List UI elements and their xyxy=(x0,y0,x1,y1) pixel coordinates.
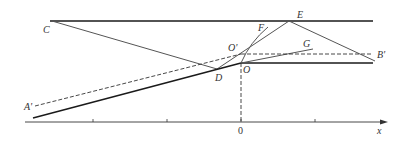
label-e: E xyxy=(296,9,303,20)
label-o: O xyxy=(243,64,250,75)
line-c-d xyxy=(52,21,217,69)
label-d: D xyxy=(214,72,223,83)
geometry-diagram: C E F G O' O D A' B' 0 x xyxy=(0,0,405,143)
label-c: C xyxy=(43,24,50,35)
bold-line-a-o xyxy=(33,63,241,118)
label-a-prime: A' xyxy=(23,101,33,112)
line-o-g xyxy=(241,49,313,63)
label-zero: 0 xyxy=(238,125,243,136)
line-e-b xyxy=(289,21,375,61)
label-f: F xyxy=(257,22,265,33)
dashed-line-a-o xyxy=(35,54,241,106)
label-b-prime: B' xyxy=(377,49,386,60)
label-x-axis: x xyxy=(376,125,382,136)
label-g: G xyxy=(303,38,310,49)
label-o-prime: O' xyxy=(228,42,238,53)
x-axis-arrow-icon xyxy=(380,120,388,125)
